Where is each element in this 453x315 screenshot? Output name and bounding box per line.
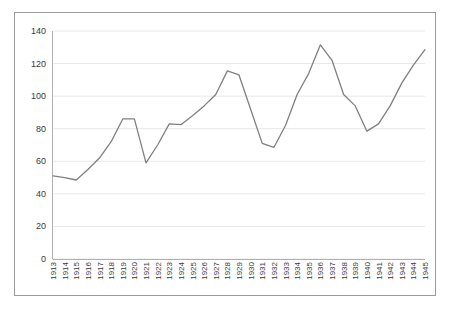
x-axis-tick-label: 1930 <box>247 262 256 280</box>
x-axis-tick-label: 1928 <box>223 262 232 280</box>
x-axis-tick-label: 1943 <box>398 262 407 280</box>
x-axis-tick-label: 1919 <box>119 262 128 280</box>
x-axis-tick-label: 1931 <box>258 262 267 280</box>
x-axis-tick-label: 1934 <box>293 262 302 280</box>
x-axis-tick-label: 1924 <box>177 262 186 280</box>
x-axis-tick-label: 1915 <box>72 262 81 280</box>
x-axis-tick-label: 1925 <box>189 262 198 280</box>
chart-container: 020406080100120140 191319141915191619171… <box>0 0 453 315</box>
x-axis-tick-label: 1922 <box>154 262 163 280</box>
y-axis-tick-label: 0 <box>22 254 46 264</box>
data-series-group <box>53 45 425 180</box>
x-axis-tick-label: 1944 <box>409 262 418 280</box>
x-axis-tick-label: 1918 <box>107 262 116 280</box>
x-axis-tick-label: 1927 <box>212 262 221 280</box>
y-axis-tick-label: 60 <box>22 156 46 166</box>
y-axis-tick-label: 20 <box>22 221 46 231</box>
x-axis-tick-label: 1939 <box>351 262 360 280</box>
y-axis-tick-label: 80 <box>22 124 46 134</box>
x-axis-tick-label: 1913 <box>49 262 58 280</box>
x-axis-tick-label: 1916 <box>84 262 93 280</box>
y-axis-tick-label: 40 <box>22 189 46 199</box>
x-axis-tick-label: 1936 <box>316 262 325 280</box>
y-axis-tick-label: 120 <box>22 59 46 69</box>
x-axis-tick-label: 1945 <box>421 262 430 280</box>
x-axis-tick-label: 1914 <box>61 262 70 280</box>
x-axis-tick-label: 1941 <box>375 262 384 280</box>
x-axis-tick-label: 1942 <box>386 262 395 280</box>
x-axis-tick-label: 1935 <box>305 262 314 280</box>
x-axis-tick-label: 1937 <box>328 262 337 280</box>
x-axis-tick-label: 1932 <box>270 262 279 280</box>
x-axis-tick-label: 1921 <box>142 262 151 280</box>
x-axis-tick-label: 1917 <box>96 262 105 280</box>
x-axis-tick-label: 1929 <box>235 262 244 280</box>
x-axis-tick-label: 1923 <box>165 262 174 280</box>
data-line-series-1 <box>53 45 425 180</box>
x-axis-tick-label: 1926 <box>200 262 209 280</box>
y-axis-tick-label: 140 <box>22 26 46 36</box>
x-axis-tick-label: 1940 <box>363 262 372 280</box>
x-axis-tick-label: 1920 <box>130 262 139 280</box>
x-axis-tick-label: 1933 <box>282 262 291 280</box>
y-axis-tick-label: 100 <box>22 91 46 101</box>
x-axis-tick-label: 1938 <box>340 262 349 280</box>
